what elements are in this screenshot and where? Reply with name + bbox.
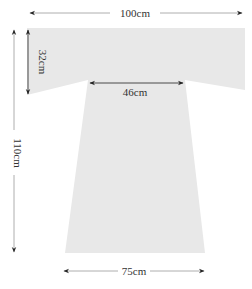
garment-shape xyxy=(27,28,245,253)
bottom-width-label: 75cm xyxy=(122,265,147,277)
sleeve-height-label: 32cm xyxy=(37,50,49,75)
dimension-total-length: 110cm xyxy=(12,30,24,252)
neck-width-label: 46cm xyxy=(123,86,148,98)
dimension-bottom-width: 75cm xyxy=(64,265,204,277)
total-length-label: 110cm xyxy=(12,138,24,168)
top-width-label: 100cm xyxy=(120,7,150,19)
dimension-top-width: 100cm xyxy=(30,7,242,19)
garment-diagram: 100cm 110cm 32cm 46cm 75cm xyxy=(0,0,252,289)
